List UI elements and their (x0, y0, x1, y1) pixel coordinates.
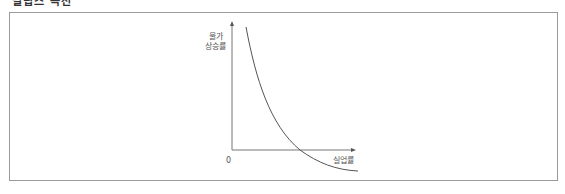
y-axis-label-line2: 상승률 (205, 42, 226, 52)
x-axis-label: 실업률 (333, 156, 354, 166)
y-axis (230, 21, 234, 150)
phillips-curve-chart (0, 0, 565, 194)
origin-label: 0 (226, 156, 231, 166)
y-axis-label-line1: 물가 (209, 32, 223, 42)
phillips-curve (246, 27, 358, 171)
x-axis (232, 148, 356, 152)
